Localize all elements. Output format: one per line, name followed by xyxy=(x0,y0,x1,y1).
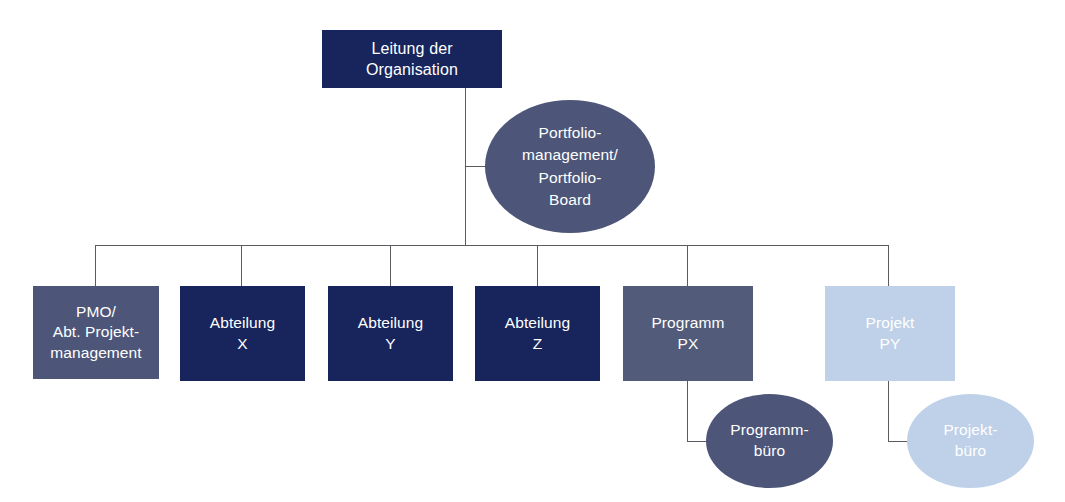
connector-drop-abteilung-z xyxy=(537,245,538,286)
connector-drop-abteilung-y xyxy=(390,245,391,286)
connector-drop-pmo xyxy=(95,245,96,286)
connector-drop-abteilung-x xyxy=(241,245,242,286)
connector-distribution-bar xyxy=(95,245,889,246)
node-programm-px[interactable]: Programm PX xyxy=(623,286,753,381)
node-abteilung-y[interactable]: Abteilung Y xyxy=(328,286,453,381)
connector-drop-programm-px xyxy=(687,245,688,286)
connector-drop-projekt-py xyxy=(888,245,889,286)
connector-py-buero-vertical xyxy=(888,380,889,441)
node-projekt-py[interactable]: Projekt PY xyxy=(825,286,955,381)
connector-px-buero-vertical xyxy=(687,380,688,441)
node-abteilung-z[interactable]: Abteilung Z xyxy=(475,286,600,381)
node-programmbuero[interactable]: Programm- büro xyxy=(706,394,833,488)
node-pmo-abt-projektmanagement[interactable]: PMO/ Abt. Projekt- management xyxy=(33,286,159,379)
org-chart-diagram: Leitung der Organisation Portfolio- mana… xyxy=(0,0,1065,502)
node-leitung-der-organisation[interactable]: Leitung der Organisation xyxy=(322,30,502,88)
node-abteilung-x[interactable]: Abteilung X xyxy=(180,286,305,381)
node-projektbuero[interactable]: Projekt- büro xyxy=(907,394,1034,488)
node-portfoliomanagement-board[interactable]: Portfolio- management/ Portfolio- Board xyxy=(485,100,655,233)
